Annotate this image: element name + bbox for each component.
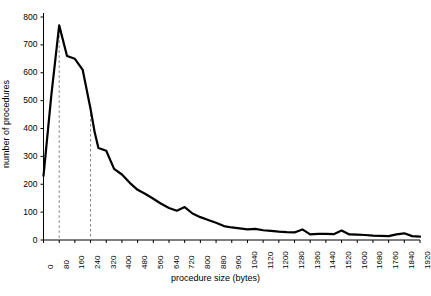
x-axis-tick-label: 1440 (329, 251, 337, 269)
x-axis-tick-label: 640 (173, 256, 181, 269)
x-axis-tick-label: 1760 (392, 251, 400, 269)
y-axis-title: number of procedures (2, 80, 11, 168)
x-axis-tick-label: 1200 (282, 251, 290, 269)
y-axis-tick-label: 800 (0, 13, 38, 22)
x-axis-tick-label: 880 (220, 256, 228, 269)
x-axis-tick-label: 1920 (424, 251, 431, 269)
y-axis-tick-label: 100 (0, 208, 38, 217)
x-axis-tick-label: 720 (188, 256, 196, 269)
x-axis-tick-label: 320 (110, 256, 118, 269)
x-axis-tick-label: 560 (157, 256, 165, 269)
x-axis-tick-label: 1360 (314, 251, 322, 269)
axis-lines (41, 13, 421, 243)
x-axis-tick-label: 1680 (376, 251, 384, 269)
x-axis-tick-label: 240 (94, 256, 102, 269)
x-axis-tick-label: 80 (63, 260, 71, 269)
x-axis-tick-label: 1520 (345, 251, 353, 269)
x-axis-tick-label: 1600 (361, 251, 369, 269)
y-axis-tick-label: 600 (0, 68, 38, 77)
y-axis-tick-label: 0 (0, 236, 38, 245)
chart-container: 0100200300400500600700800 08016024032040… (0, 0, 431, 296)
y-axis-tick-label: 200 (0, 180, 38, 189)
x-axis-tick-label: 1040 (251, 251, 259, 269)
x-axis-tick-label: 800 (204, 256, 212, 269)
x-axis-tick-label: 400 (125, 256, 133, 269)
data-series-line (44, 25, 421, 236)
x-axis-tick-label: 0 (47, 265, 55, 269)
annotation-dashed-lines (59, 25, 90, 240)
x-axis-tick-label: 1840 (408, 251, 416, 269)
x-axis-title: procedure size (bytes) (0, 274, 431, 283)
x-axis-tick-label: 960 (235, 256, 243, 269)
x-axis-tick-label: 1280 (298, 251, 306, 269)
y-axis-tick-label: 700 (0, 40, 38, 49)
x-axis-tick-label: 160 (78, 256, 86, 269)
x-axis-tick-label: 1120 (267, 252, 275, 269)
x-axis-tick-label: 480 (141, 256, 149, 269)
